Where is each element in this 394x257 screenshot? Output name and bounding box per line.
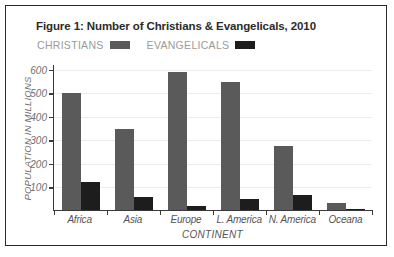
bar-christians-oceana	[327, 203, 346, 210]
bar-christians-lamerica	[221, 82, 240, 210]
legend-entry: EVANGELICALS	[147, 39, 256, 51]
bar-group	[54, 65, 107, 210]
x-tick-mark	[372, 210, 373, 215]
y-tick-label: 200	[30, 158, 47, 169]
x-axis-label-africa: Africa	[53, 214, 106, 225]
bar-evangelicals-asia	[134, 197, 153, 210]
y-tick-label: 100	[30, 182, 47, 193]
chart-legend: CHRISTIANSEVANGELICALS	[37, 39, 255, 51]
legend-entry: CHRISTIANS	[37, 39, 130, 51]
bar-group	[266, 65, 319, 210]
y-tick-label: 300	[30, 135, 47, 146]
bar-christians-europe	[168, 72, 187, 210]
bar-group	[213, 65, 266, 210]
x-axis-label-lamerica: L. America	[213, 214, 266, 225]
legend-label: CHRISTIANS	[37, 39, 104, 51]
bar-christians-africa	[62, 93, 81, 210]
bar-evangelicals-africa	[81, 182, 100, 210]
legend-label: EVANGELICALS	[147, 39, 230, 51]
y-tick-label: 600	[30, 64, 47, 75]
plot-area: 100200300400500600	[53, 65, 372, 211]
bar-evangelicals-lamerica	[240, 199, 259, 210]
x-axis-label-europe: Europe	[159, 214, 212, 225]
x-axis-label-oceana: Oceana	[319, 214, 372, 225]
legend-swatch-evangelicals	[235, 41, 255, 49]
legend-swatch-christians	[110, 41, 130, 49]
x-axis-title: CONTINENT	[53, 229, 372, 240]
bar-group	[107, 65, 160, 210]
figure-frame: Figure 1: Number of Christians & Evangel…	[5, 5, 387, 246]
plot-wrap: 100200300400500600	[53, 65, 372, 211]
bar-evangelicals-namerica	[293, 195, 312, 210]
bar-group	[319, 65, 372, 210]
x-axis-label-asia: Asia	[106, 214, 159, 225]
bar-christians-namerica	[274, 146, 293, 210]
y-tick-label: 400	[30, 111, 47, 122]
chart-title: Figure 1: Number of Christians & Evangel…	[36, 20, 316, 32]
x-axis-label-namerica: N. America	[266, 214, 319, 225]
y-tick-label: 500	[30, 88, 47, 99]
bar-christians-asia	[115, 129, 134, 210]
x-axis-tick-labels: AfricaAsiaEuropeL. AmericaN. AmericaOcea…	[53, 214, 372, 225]
bar-group	[160, 65, 213, 210]
bars-layer	[54, 65, 372, 210]
